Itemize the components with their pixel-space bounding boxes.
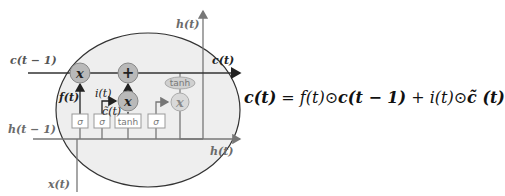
eq-input-term: i(t) [430, 88, 454, 107]
label-x-in: x(t) [47, 178, 70, 191]
svg-text:x: x [75, 66, 84, 81]
svg-text:x: x [175, 95, 184, 110]
label-f-gate: f(t) [58, 91, 79, 104]
eq-hadamard-1: ⊙ [325, 88, 338, 107]
eq-equals: = [276, 88, 300, 107]
eq-plus: + [406, 88, 430, 107]
cell-state-equation: c(t) = f(t)⊙c(t − 1) + i(t)⊙c̃ (t) [244, 88, 505, 107]
eq-forget-term: f(t) [300, 88, 325, 107]
output-gate-sigma: σ [148, 114, 165, 128]
eq-c-prev: c(t − 1) [338, 88, 406, 107]
label-c-out: c(t) [212, 54, 234, 67]
label-c-prev: c(t − 1) [10, 54, 57, 67]
eq-lhs: c(t) [244, 88, 276, 107]
svg-text:tanh: tanh [118, 117, 138, 127]
label-h-out: h(t) [210, 145, 234, 158]
output-multiply-op: x [171, 93, 189, 111]
eq-c-tilde: c̃ (t) [467, 88, 505, 107]
add-op: + [118, 63, 138, 83]
output-tanh-op: tanh [165, 77, 195, 89]
label-i-gate: i(t) [95, 87, 112, 100]
svg-text:tanh: tanh [170, 78, 190, 88]
forget-gate-sigma: σ [72, 114, 88, 128]
forget-multiply-op: x [70, 63, 90, 83]
label-h-top: h(t) [176, 18, 200, 31]
svg-text:σ: σ [99, 117, 105, 127]
label-h-prev: h(t − 1) [8, 123, 56, 136]
svg-text:+: + [122, 64, 135, 82]
svg-text:σ: σ [153, 117, 159, 127]
svg-text:σ: σ [77, 117, 83, 127]
label-c-tilde: c̃(t) [102, 105, 121, 118]
svg-text:x: x [123, 94, 132, 109]
eq-hadamard-2: ⊙ [454, 88, 467, 107]
